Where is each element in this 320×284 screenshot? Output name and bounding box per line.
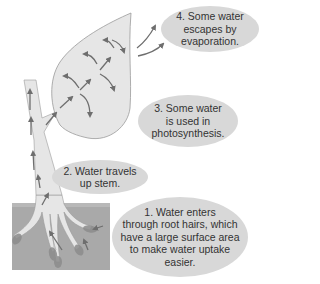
label-line: photosynthesis.	[152, 127, 225, 140]
label-line: 3. Some water	[152, 102, 225, 115]
label-line: evaporation.	[176, 35, 244, 48]
label-line: escapes by	[176, 23, 244, 36]
label-line: through root hairs, which	[120, 218, 239, 231]
label-line: 4. Some water	[176, 10, 244, 23]
label-line: easier.	[120, 256, 239, 269]
label-step-1: 1. Water enters through root hairs, whic…	[112, 197, 248, 277]
label-step-3: 3. Some water is used in photosynthesis.	[138, 95, 238, 147]
label-step-2: 2. Water travels up stem.	[52, 160, 148, 194]
leaf	[52, 13, 131, 139]
label-line: 2. Water travels	[63, 165, 136, 178]
label-line: 1. Water enters	[120, 206, 239, 219]
label-step-4: 4. Some water escapes by evaporation.	[161, 6, 259, 52]
label-line: have a large surface area	[120, 231, 239, 244]
label-line: to make water uptake	[120, 243, 239, 256]
label-line: up stem.	[63, 177, 136, 190]
label-line: is used in	[152, 115, 225, 128]
